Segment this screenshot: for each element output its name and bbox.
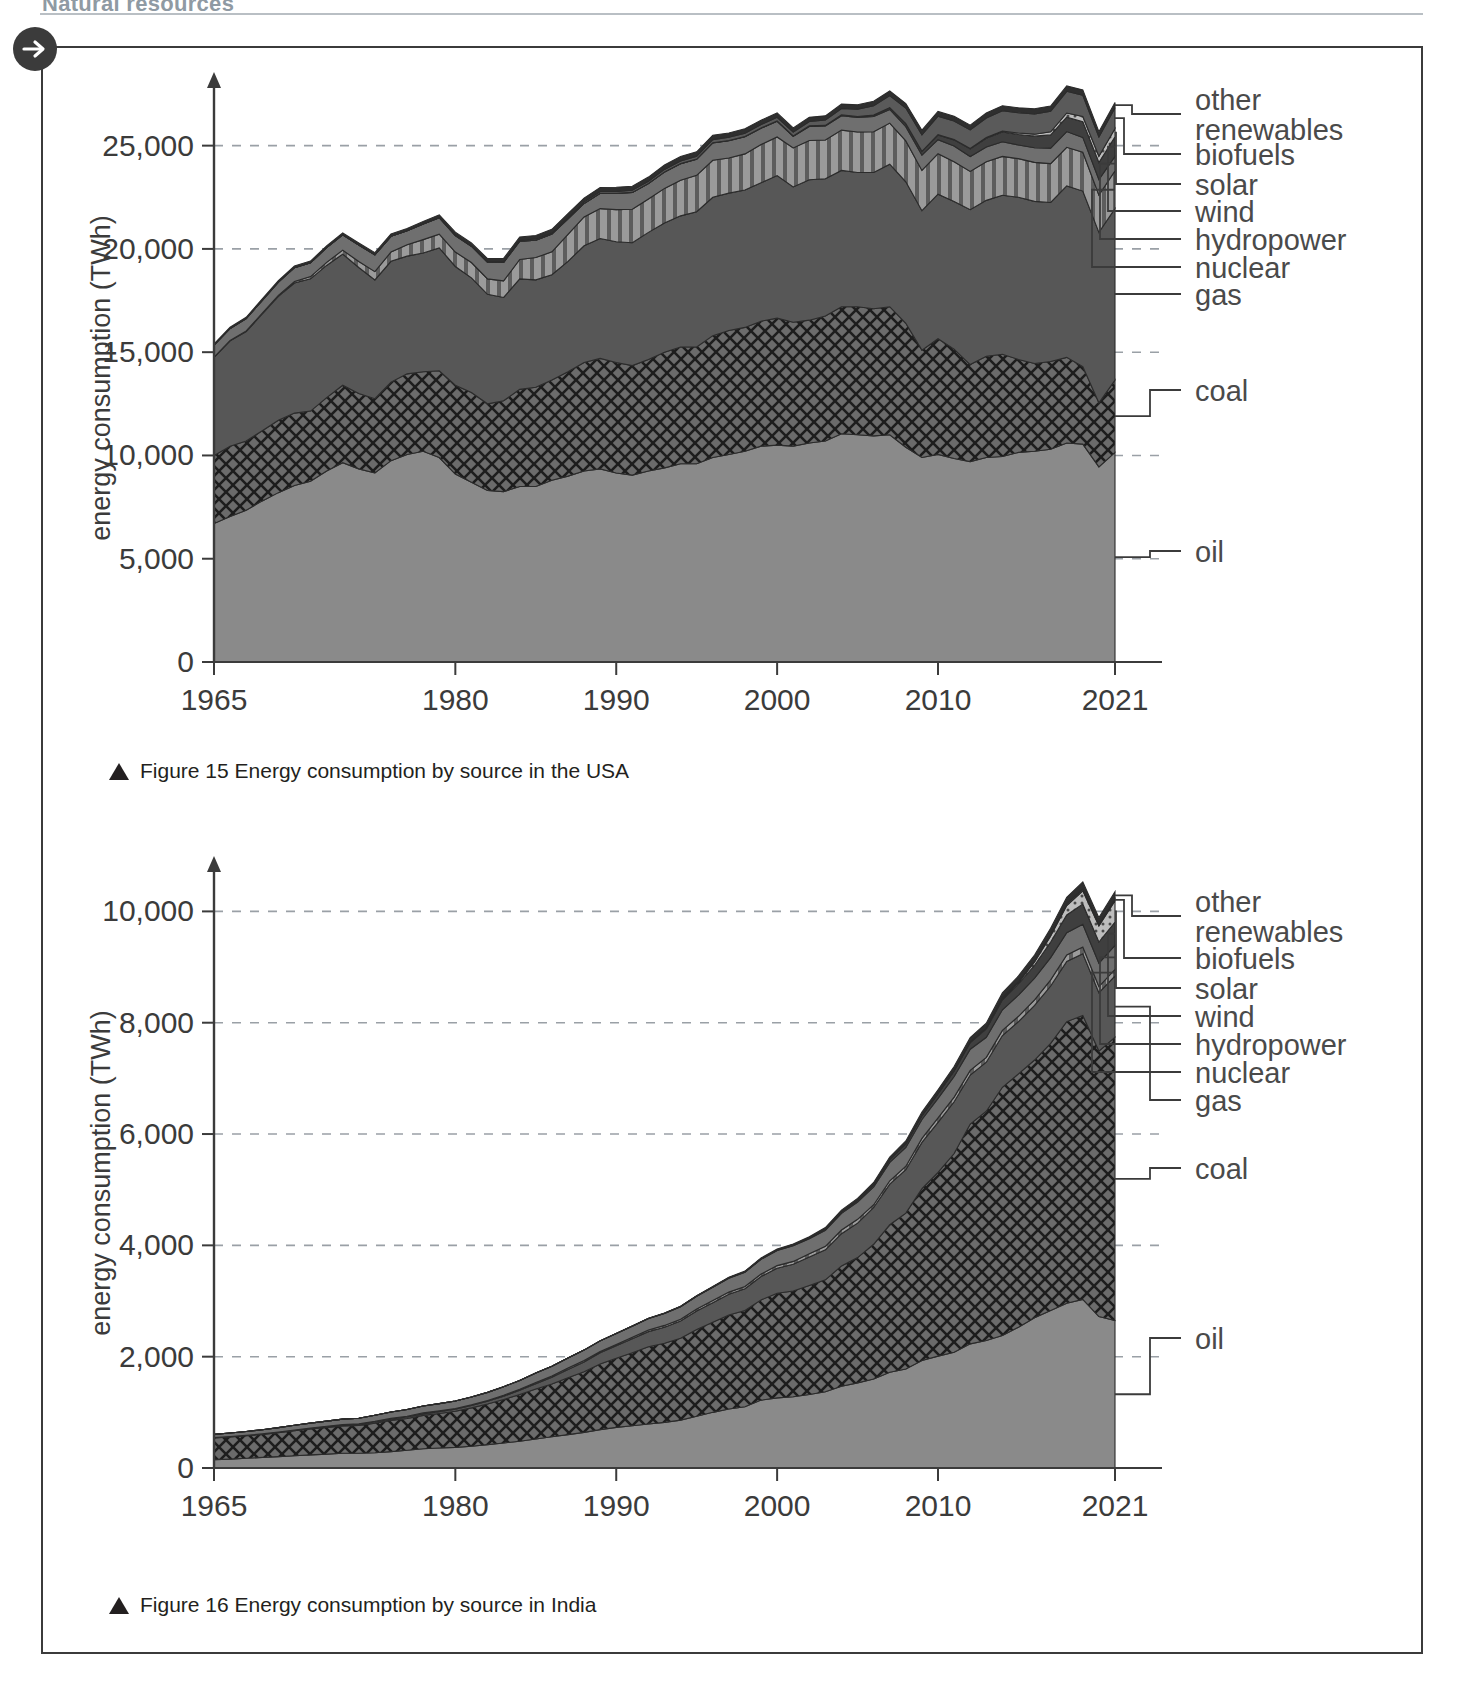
svg-text:oil: oil bbox=[1195, 536, 1224, 568]
caption-text: Figure 16 Energy consumption by source i… bbox=[140, 1593, 596, 1617]
svg-text:biofuels: biofuels bbox=[1195, 943, 1295, 975]
caption-figure-16: Figure 16 Energy consumption by source i… bbox=[109, 1593, 596, 1617]
svg-text:gas: gas bbox=[1195, 1085, 1242, 1117]
svg-text:10,000: 10,000 bbox=[102, 894, 194, 927]
svg-text:2000: 2000 bbox=[744, 683, 811, 716]
svg-text:2,000: 2,000 bbox=[119, 1340, 194, 1373]
triangle-up-icon bbox=[109, 1597, 129, 1614]
svg-text:2010: 2010 bbox=[905, 683, 972, 716]
svg-text:oil: oil bbox=[1195, 1323, 1224, 1355]
svg-text:25,000: 25,000 bbox=[102, 129, 194, 162]
svg-text:2010: 2010 bbox=[905, 1489, 972, 1522]
svg-text:energy consumption (TWh): energy consumption (TWh) bbox=[86, 215, 116, 541]
svg-text:other: other bbox=[1195, 886, 1261, 918]
svg-text:5,000: 5,000 bbox=[119, 542, 194, 575]
svg-text:6,000: 6,000 bbox=[119, 1117, 194, 1150]
svg-text:1980: 1980 bbox=[422, 683, 489, 716]
svg-text:energy consumption (TWh): energy consumption (TWh) bbox=[86, 1010, 116, 1336]
svg-text:1990: 1990 bbox=[583, 683, 650, 716]
svg-text:0: 0 bbox=[177, 1451, 194, 1484]
arrow-right-circle-icon bbox=[13, 27, 57, 71]
svg-text:1990: 1990 bbox=[583, 1489, 650, 1522]
svg-text:coal: coal bbox=[1195, 1153, 1248, 1185]
svg-text:2021: 2021 bbox=[1082, 1489, 1149, 1522]
textbook-page: Natural resources 05,00010,00015,00020,0… bbox=[0, 0, 1463, 1683]
svg-text:4,000: 4,000 bbox=[119, 1228, 194, 1261]
svg-text:8,000: 8,000 bbox=[119, 1006, 194, 1039]
svg-text:coal: coal bbox=[1195, 375, 1248, 407]
svg-text:2000: 2000 bbox=[744, 1489, 811, 1522]
chart-figure-16: 02,0004,0006,0008,00010,0001965198019902… bbox=[2, 768, 1463, 1598]
svg-text:1965: 1965 bbox=[181, 683, 248, 716]
svg-text:other: other bbox=[1195, 84, 1261, 116]
svg-text:biofuels: biofuels bbox=[1195, 139, 1295, 171]
svg-text:1965: 1965 bbox=[181, 1489, 248, 1522]
figure-container: 05,00010,00015,00020,00025,0001965198019… bbox=[41, 46, 1423, 1654]
svg-text:1980: 1980 bbox=[422, 1489, 489, 1522]
chart-figure-15: 05,00010,00015,00020,00025,0001965198019… bbox=[2, 2, 1463, 762]
svg-text:gas: gas bbox=[1195, 279, 1242, 311]
svg-text:2021: 2021 bbox=[1082, 683, 1149, 716]
svg-text:0: 0 bbox=[177, 645, 194, 678]
